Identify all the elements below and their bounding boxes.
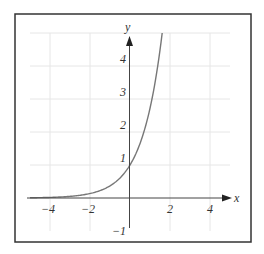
y-axis-label: y [124,20,131,34]
x-tick-label: −2 [81,202,95,216]
x-tick-label: −4 [41,202,55,216]
x-tick-label: 4 [207,202,213,216]
y-tick-label: 4 [120,52,126,66]
y-tick-label: −1 [112,224,126,238]
y-tick-label: 2 [120,118,126,132]
chart: x y −4−224−11234 [0,0,264,254]
y-tick-label: 3 [119,85,126,99]
x-tick-label: 2 [167,202,173,216]
x-axis-label: x [233,191,240,205]
y-tick-label: 1 [120,151,126,165]
